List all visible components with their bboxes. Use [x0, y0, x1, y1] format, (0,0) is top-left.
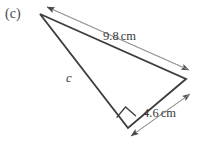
dimension-right-unit: cm	[161, 106, 176, 120]
dimension-label-top: 9.8cm	[103, 30, 136, 43]
dimension-top-value: 9.8	[103, 29, 119, 43]
part-label: (c)	[5, 7, 21, 21]
dimension-top-unit: cm	[121, 29, 136, 43]
geometry-figure: (c) c 9.8cm 4.6cm	[0, 0, 201, 143]
dimension-right-value: 4.6	[143, 106, 159, 120]
side-label-c: c	[66, 71, 72, 84]
triangle-diagram-svg	[0, 0, 201, 143]
dimension-label-right: 4.6cm	[143, 107, 176, 120]
